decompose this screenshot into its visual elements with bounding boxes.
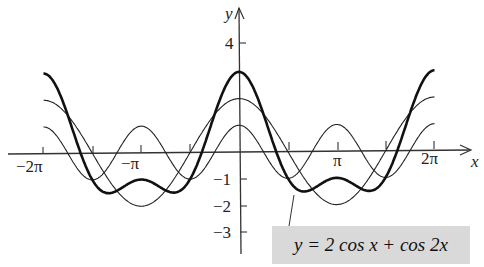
tick-label-m3: −3 (213, 224, 231, 241)
tick-label-pi: π (333, 152, 342, 169)
tick-label-negpi: −π (121, 155, 139, 172)
tick-label-m2: −2 (213, 198, 231, 215)
x-axis-label: x (471, 153, 479, 170)
y-axis-label: y (225, 5, 233, 22)
equation-label: y = 2 cos x + cos 2x (272, 226, 470, 264)
y-axis (239, 8, 241, 254)
tick-label-4: 4 (225, 35, 234, 52)
tick-label-neg2pi: −2π (16, 158, 43, 175)
annotation-leader-line (289, 195, 294, 226)
x-axis (8, 150, 470, 154)
equation-text: y = 2 cos x + cos 2x (294, 234, 448, 256)
tick-label-2pi: 2π (421, 150, 438, 167)
tick-label-m1: −1 (213, 171, 231, 188)
